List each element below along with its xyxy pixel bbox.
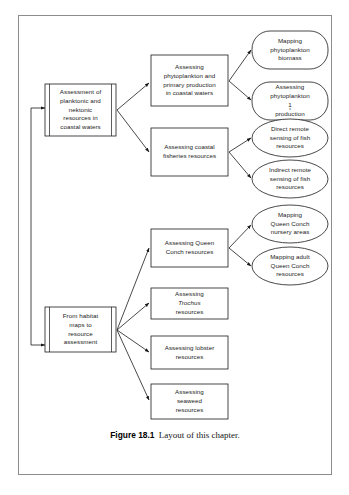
node-n6-label[interactable]: Assessing Trochus resources [151, 288, 228, 319]
figure-caption-text: Layout of this chapter. [159, 430, 240, 440]
connector-n4-branch [229, 138, 251, 178]
node-n3-label[interactable]: Assessing phytoplankton and primary prod… [151, 55, 228, 106]
node-n1-line-5: coastal waters [60, 123, 101, 132]
node-n6-prefix: Assessing [175, 290, 204, 299]
node-n2-line-4: assessment [63, 338, 98, 347]
node-n3-line-1: Assessing [163, 63, 215, 72]
node-n10-line-2: phytoplankton [270, 92, 309, 101]
node-n13-line-3: nursery areas [271, 228, 310, 237]
node-n1-line-3: nektonic [60, 106, 101, 115]
node-n9-line-1: Mapping [270, 37, 309, 46]
node-n8-line-2: seaweed [175, 397, 204, 406]
node-n8-line-1: Assessing [175, 388, 204, 397]
node-n4-line-2: fisheries resources [163, 152, 216, 161]
node-n4-label[interactable]: Assessing coastal fisheries resources [151, 128, 228, 176]
node-n6-line-2: resources [175, 308, 204, 317]
node-n12-label[interactable]: Indirect remote sensing of fish resource… [252, 160, 328, 198]
node-n10-line-3: 1° production [270, 101, 309, 119]
node-n1-line-2: planktonic and [60, 97, 101, 106]
node-n5-line-1: Assessing Queen [165, 239, 214, 248]
node-n10-production-word: production [270, 110, 309, 119]
node-n8-label[interactable]: Assessing seaweed resources [151, 384, 228, 419]
node-n4-line-1: Assessing coastal [163, 143, 216, 152]
node-n9-label[interactable]: Mapping phytoplankton biomass [252, 31, 328, 69]
connector-n2-branch [117, 248, 149, 400]
node-n8-line-3: resources [175, 406, 204, 415]
node-n12-line-2: sensing of fish [269, 175, 311, 184]
node-n2-line-2: maps to [63, 321, 98, 330]
figure-caption: Figure 18.1 Layout of this chapter. [18, 430, 332, 440]
node-n12-line-1: Indirect remote [269, 166, 311, 175]
node-n14-line-3: resources [270, 270, 310, 279]
node-n14-line-2: Queen Conch [270, 262, 310, 271]
node-n11-line-1: Direct remote [270, 125, 310, 134]
node-n5-line-2: Conch resources [165, 248, 214, 257]
figure-page: Assessment of planktonic and nektonic re… [0, 0, 349, 495]
node-n7-label[interactable]: Assessing lobster resources [151, 336, 228, 369]
node-n14-line-1: Mapping adult [270, 253, 310, 262]
node-n2-line-1: From habitat [63, 312, 98, 321]
node-n9-line-2: phytoplankton [270, 46, 309, 55]
node-n6-line-1: Assessing Trochus [175, 290, 204, 308]
node-n7-line-2: resources [165, 353, 215, 362]
node-n2-line-3: resource [63, 330, 98, 339]
node-n1-line-4: resources in [60, 114, 101, 123]
node-n5-label[interactable]: Assessing Queen Conch resources [151, 229, 228, 267]
node-n13-label[interactable]: Mapping Queen Conch nursery areas [252, 205, 328, 243]
node-n13-line-2: Queen Conch [271, 220, 310, 229]
node-n12-line-3: resources [269, 183, 311, 192]
node-n2-label[interactable]: From habitat maps to resource assessment [50, 307, 111, 352]
node-n10-line-1: Assessing [270, 83, 309, 92]
figure-caption-label: Figure 18.1 [110, 430, 154, 440]
node-n3-line-3: primary production [163, 81, 215, 90]
node-n3-line-2: phytoplankton and [163, 72, 215, 81]
connector-spine [31, 108, 45, 345]
node-n3-line-4: in coastal waters [163, 89, 215, 98]
node-n11-label[interactable]: Direct remote sensing of fish resources [252, 119, 328, 157]
node-n13-line-1: Mapping [271, 211, 310, 220]
node-n14-label[interactable]: Mapping adult Queen Conch resources [252, 247, 328, 285]
connector-n3-branch [229, 50, 251, 100]
connector-n5-branch [229, 225, 251, 266]
node-n11-line-2: sensing of fish [270, 134, 310, 143]
node-n1-line-1: Assessment of [60, 88, 101, 97]
node-n7-line-1: Assessing lobster [165, 344, 215, 353]
node-n11-line-3: resources [270, 142, 310, 151]
node-n6-species-name: Trochus [175, 299, 204, 308]
node-n10-label[interactable]: Assessing phytoplankton 1° production [252, 82, 328, 120]
connector-n1-branch [117, 83, 149, 152]
node-n1-label[interactable]: Assessment of planktonic and nektonic re… [50, 84, 111, 136]
node-n9-line-3: biomass [270, 54, 309, 63]
